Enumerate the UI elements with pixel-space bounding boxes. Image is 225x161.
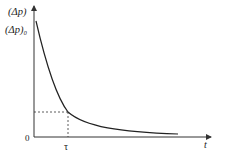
origin-label: 0	[25, 133, 30, 143]
tau-label: τ	[64, 141, 68, 152]
y-initial-label: (Δp)₀	[5, 24, 27, 36]
y-axis-label: (Δp)	[8, 6, 27, 18]
decay-diagram: (Δp) (Δp)₀ 0 τ t	[0, 0, 225, 161]
plot-canvas: (Δp) (Δp)₀ 0 τ t	[0, 0, 225, 161]
x-axis-label: t	[204, 139, 207, 150]
decay-curve	[36, 21, 178, 134]
